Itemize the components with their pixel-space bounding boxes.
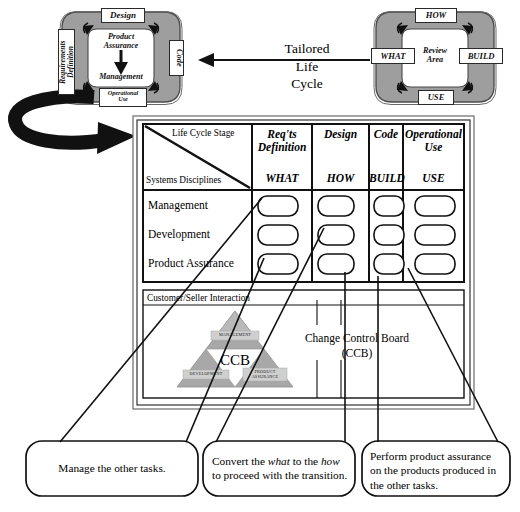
matrix-col-header-0: Req'tsDefinition <box>252 128 312 154</box>
matrix-corner-life-cycle-stage: Life Cycle Stage <box>172 128 234 138</box>
emphasis-term: how <box>321 455 340 467</box>
left-wheel-hub-management: Management <box>88 73 154 82</box>
ccb-note-line-1: Change Control Board <box>292 331 422 346</box>
matrix-row-label-2: Product Assurance <box>148 257 234 269</box>
ccb-triangle-center-label: CCB <box>205 352 265 369</box>
left-wheel-label-code: Code <box>169 40 184 76</box>
page-title: Tailored Life Cycle <box>252 40 362 93</box>
headline-line-3: Cycle <box>252 75 362 93</box>
ccb-triangle-label-management: MANAGEMENT <box>211 333 259 338</box>
ccb-note: Change Control Board (CCB) <box>292 331 422 361</box>
callout-development-text: Convert the what to the howto proceed wi… <box>212 454 352 483</box>
callout-text-run: to the <box>290 455 321 467</box>
ccb-triangle-label-product-assurance: PRODUCTASSURANCE <box>243 370 287 380</box>
right-wheel-hub-review-area: ReviewArea <box>404 47 466 65</box>
matrix-col-header-2: Code <box>369 128 403 141</box>
right-wheel-label-use: USE <box>418 90 454 105</box>
matrix-col-key-0: WHAT <box>252 172 312 184</box>
left-wheel-label-operational-use: OperationalUse <box>99 88 147 107</box>
matrix-col-header-3: OperationalUse <box>403 128 464 154</box>
customer-seller-interaction-label: Customer/Seller Interaction <box>147 293 250 303</box>
callout-text-run: Convert the <box>212 455 268 467</box>
left-wheel-hub-product-assurance: ProductAssurance <box>90 33 152 50</box>
matrix-col-header-1: Design <box>312 128 369 141</box>
left-wheel-label-design: Design <box>101 8 145 23</box>
matrix-corner-systems-disciplines: Systems Disciplines <box>146 175 221 185</box>
headline-line-1: Tailored <box>252 40 362 58</box>
emphasis-term: what <box>268 455 290 467</box>
callout-management-text: Manage the other tasks. <box>34 461 190 475</box>
matrix-col-key-1: HOW <box>312 172 369 184</box>
left-wheel-label-requirements-definition: RequirementsDefinition <box>58 29 75 95</box>
callout-text-run: to proceed with the transition. <box>212 469 347 481</box>
matrix-col-key-3: USE <box>403 172 464 184</box>
matrix-row-label-1: Development <box>148 228 210 240</box>
ccb-note-line-2: (CCB) <box>292 346 422 361</box>
matrix-col-key-2: BUILD <box>369 172 403 184</box>
headline-line-2: Life <box>252 58 362 76</box>
right-wheel-label-how: HOW <box>415 8 457 23</box>
diagram-canvas: Tailored Life Cycle Design RequirementsD… <box>0 0 520 512</box>
callout-product-assurance-text: Perform product assuranceon the products… <box>370 449 510 492</box>
matrix-row-label-0: Management <box>148 199 208 211</box>
ccb-triangle-label-development: DEVELOPMENT <box>183 372 229 377</box>
